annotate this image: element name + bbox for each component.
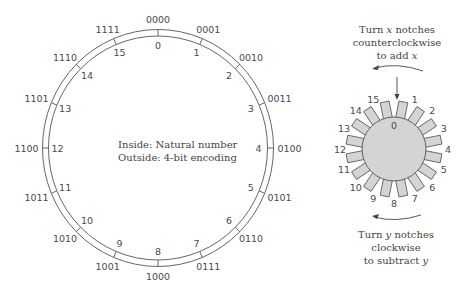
outside-label: 1101 [24,93,48,104]
inside-label: 2 [226,70,232,81]
outside-label: 1011 [24,192,48,203]
gear-notch-label: 4 [445,144,451,155]
inside-label: 6 [226,215,232,226]
ring-tick [76,64,80,69]
outside-label: 0011 [267,93,291,104]
gear-notch-label: 12 [334,144,346,155]
outside-label: 1100 [14,143,38,154]
gear-notch-label: 15 [367,94,379,105]
outside-label: 0000 [146,14,170,25]
inside-label: 12 [51,143,63,154]
modular-arithmetic-diagram: 0000010001200103001140100501016011070111… [0,0,462,292]
gear-notch-label: 13 [338,123,350,134]
gear-dial: 0123456789101112131415 [334,94,451,209]
gear-notch-label: 5 [441,164,447,175]
outside-label: 1111 [96,24,120,35]
outside-label: 1110 [53,52,77,63]
outside-label: 0010 [239,52,263,63]
ring-tick [235,227,239,232]
gear-notch-label: 7 [412,193,418,204]
gear-notch-label: 0 [391,120,397,131]
center-note-line2: Outside: 4-bit encoding [118,152,237,163]
inside-label: 15 [113,47,125,58]
inside-label: 3 [248,103,254,114]
ring-tick [235,64,239,69]
bottom-caption: Turn y notches clockwise to subtract y [358,229,434,266]
gear-notch-label: 2 [429,105,435,116]
inside-label: 13 [59,103,71,114]
outside-label: 0100 [277,143,301,154]
inside-label: 8 [155,246,161,257]
ring-tick [51,103,57,105]
pointer-arrow-icon [395,77,400,100]
top-caption-line2: counterclockwise [353,37,442,48]
outside-label: 1001 [96,261,120,272]
inside-label: 9 [117,238,123,249]
inside-label: 10 [81,215,93,226]
gear-notch-label: 10 [350,182,362,193]
top-caption: Turn x notches counterclockwise to add x [353,24,442,61]
outside-label: 1000 [146,271,170,282]
outside-label: 0111 [196,261,220,272]
inside-label: 1 [193,47,199,58]
ring-tick [200,251,202,257]
inside-label: 11 [59,182,71,193]
inside-label: 14 [81,70,93,81]
inside-label: 4 [255,143,261,154]
ring-tick [76,227,80,232]
gear-notch-label: 1 [412,94,418,105]
outside-label: 1010 [53,233,77,244]
gear-notch-label: 11 [338,164,350,175]
bottom-caption-line3: to subtract y [364,255,429,266]
inside-label: 5 [248,182,254,193]
outside-label: 0001 [196,24,220,35]
ring-tick [200,39,202,45]
ring-tick [114,39,116,45]
ring-tick [114,251,116,257]
inside-label: 7 [193,238,199,249]
gear-notch-label: 8 [391,198,397,209]
bottom-caption-line2: clockwise [371,242,420,253]
bottom-caption-line1: Turn y notches [358,229,434,240]
counterclockwise-arrow-icon [372,65,423,71]
ring-tick [259,103,265,105]
gear-notch-label: 6 [429,182,435,193]
gear-notch-label: 3 [441,123,447,134]
top-caption-line3: to add x [377,50,418,61]
outside-label: 0101 [267,192,291,203]
inside-label: 0 [155,40,161,51]
outside-label: 0110 [239,233,263,244]
ring-tick [51,191,57,193]
clockwise-arrow-icon [372,214,421,220]
ring-tick [259,191,265,193]
gear-notch-label: 14 [350,105,362,116]
top-caption-line1: Turn x notches [359,24,435,35]
center-note-line1: Inside: Natural number [118,139,238,150]
gear-notch-label: 9 [370,193,376,204]
